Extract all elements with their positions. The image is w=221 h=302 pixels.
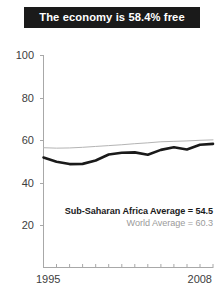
chart-page: The economy is 58.4% free	[0, 0, 221, 302]
chart-legend: Sub-Saharan Africa Average = 54.5 World …	[0, 205, 213, 229]
series-line-sub-saharan-africa	[44, 144, 214, 164]
y-tick-label-40: 40	[4, 178, 34, 189]
legend-label-sub-saharan-africa: Sub-Saharan Africa Average = 54.5	[0, 205, 213, 217]
x-tick-label-end: 2008	[188, 274, 212, 285]
x-tick-label-start: 1995	[36, 274, 60, 285]
chart-plot-area: 100 80 60 40 20 1995 2008 Sub-Saharan Af…	[0, 0, 221, 302]
line-chart-svg	[0, 0, 221, 302]
y-tick-label-80: 80	[4, 93, 34, 104]
y-tick-label-100: 100	[4, 50, 34, 61]
legend-label-world-average: World Average = 60.3	[0, 217, 213, 229]
y-tick-label-60: 60	[4, 135, 34, 146]
series-line-world-average	[44, 140, 214, 148]
